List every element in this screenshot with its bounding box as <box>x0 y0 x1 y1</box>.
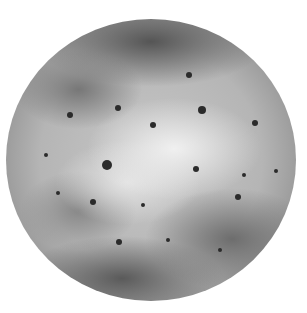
surface-spot <box>242 173 246 177</box>
surface-spot <box>218 248 222 252</box>
surface-spot <box>67 112 73 118</box>
surface-spot <box>235 194 241 200</box>
surface-spot <box>166 238 170 242</box>
surface-spot <box>56 191 60 195</box>
surface-spot <box>186 72 192 78</box>
surface-spot <box>141 203 145 207</box>
planet-moon <box>6 19 296 301</box>
surface-spot <box>198 106 206 114</box>
surface-spot <box>44 153 48 157</box>
surface-spot <box>150 122 156 128</box>
surface-spot <box>102 160 112 170</box>
surface-spot <box>90 199 96 205</box>
surface-spot <box>116 239 122 245</box>
surface-spot <box>274 169 278 173</box>
surface-spot <box>115 105 121 111</box>
surface-spot <box>252 120 258 126</box>
surface-spot <box>193 166 199 172</box>
